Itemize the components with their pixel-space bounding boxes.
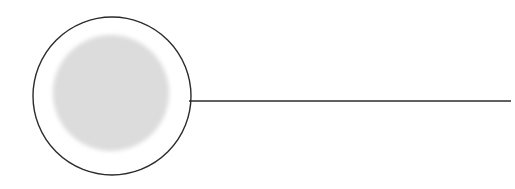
lollipop-diagram: [0, 0, 515, 189]
inner-gray-disc: [53, 35, 169, 151]
diagram-canvas: [0, 0, 515, 189]
